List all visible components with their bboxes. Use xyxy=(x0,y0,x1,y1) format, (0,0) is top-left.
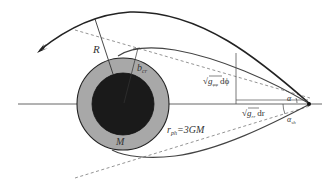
observer-point xyxy=(307,102,311,106)
inner-core xyxy=(92,73,154,135)
label-alpha: α xyxy=(287,94,292,103)
label-sqrt-grr-dr: √grrdr xyxy=(242,108,265,119)
label-sqrt-gpp-dphi: √gφφdϕ xyxy=(203,76,230,87)
alpha-arc xyxy=(296,98,297,103)
photon-sphere-diagram: R bcr √gφφdϕ α √grrdr αsh rph=3GM M xyxy=(0,0,329,189)
label-M: M xyxy=(115,136,125,147)
label-r-ph: rph=3GM xyxy=(167,124,205,136)
label-alpha-sh: αsh xyxy=(287,115,296,125)
alpha-sh-arc xyxy=(283,104,285,114)
label-R: R xyxy=(92,43,100,55)
